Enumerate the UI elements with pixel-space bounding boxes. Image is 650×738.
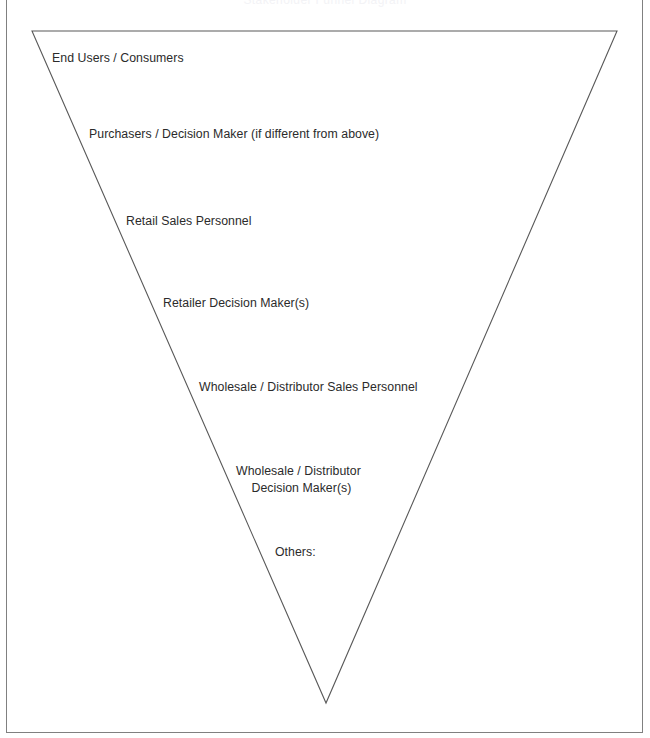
tier-label-retailer-decision-makers: Retailer Decision Maker(s) — [163, 295, 309, 312]
funnel-diagram: End Users / ConsumersPurchasers / Decisi… — [0, 0, 650, 738]
funnel-label-layer: End Users / ConsumersPurchasers / Decisi… — [0, 0, 650, 738]
tier-label-wholesale-distributor-decision-makers: Wholesale / DistributorDecision Maker(s) — [236, 463, 361, 497]
tier-label-line: Decision Maker(s) — [242, 480, 361, 497]
tier-label-retail-sales-personnel: Retail Sales Personnel — [126, 213, 252, 230]
tier-label-end-users-consumers: End Users / Consumers — [52, 50, 184, 67]
tier-label-line: Wholesale / Distributor — [236, 463, 361, 480]
tier-label-others: Others: — [275, 544, 316, 561]
tier-label-wholesale-distributor-sales-personnel: Wholesale / Distributor Sales Personnel — [199, 379, 418, 396]
tier-label-purchasers-decision-maker: Purchasers / Decision Maker (if differen… — [89, 126, 379, 143]
